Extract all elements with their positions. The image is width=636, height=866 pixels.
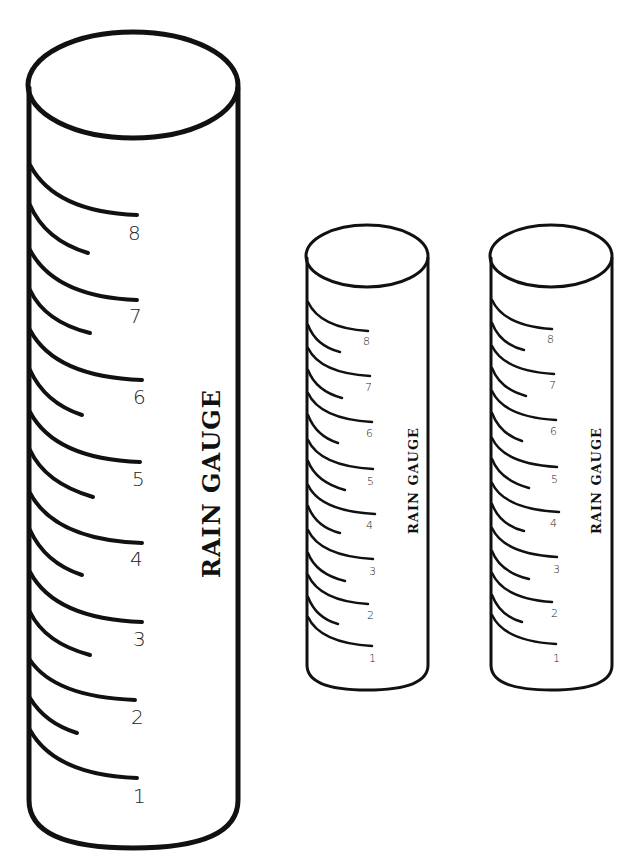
mark-5: 5 — [132, 467, 145, 491]
mark-6: 6 — [366, 427, 373, 440]
large-gauge-label: RAIN GAUGE — [197, 389, 226, 578]
small-rain-gauge-1: 1 2 3 4 5 6 7 8 RAIN GAUGE — [306, 225, 428, 690]
rain-gauges-drawing: 1 2 3 4 5 6 7 8 RAIN GAUGE — [0, 0, 636, 866]
small-gauge-1-scale — [308, 302, 375, 646]
mark-1: 1 — [369, 652, 376, 665]
small-gauge-2-numbers: 1 2 3 4 5 6 7 8 — [547, 333, 560, 665]
large-gauge-numbers: 1 2 3 4 5 6 7 8 — [128, 221, 146, 808]
mark-6: 6 — [550, 425, 557, 438]
small-gauge-2-scale — [492, 300, 559, 644]
mark-3: 3 — [133, 627, 146, 651]
mark-2: 2 — [131, 705, 144, 729]
mark-3: 3 — [553, 563, 560, 576]
mark-5: 5 — [551, 473, 558, 486]
small-gauge-1-numbers: 1 2 3 4 5 6 7 8 — [363, 335, 376, 665]
mark-2: 2 — [551, 607, 558, 620]
mark-7: 7 — [129, 304, 142, 328]
mark-8: 8 — [128, 221, 141, 245]
mark-4: 4 — [366, 519, 373, 532]
mark-7: 7 — [549, 379, 556, 392]
small-gauge-1-rim — [306, 225, 428, 287]
large-gauge-scale — [30, 165, 142, 778]
mark-1: 1 — [133, 784, 146, 808]
small-gauge-1-label: RAIN GAUGE — [406, 427, 421, 534]
large-rain-gauge: 1 2 3 4 5 6 7 8 RAIN GAUGE — [28, 32, 238, 848]
mark-5: 5 — [367, 475, 374, 488]
mark-1: 1 — [553, 652, 560, 665]
small-gauge-2-rim — [490, 225, 612, 287]
mark-3: 3 — [369, 565, 376, 578]
mark-7: 7 — [365, 381, 372, 394]
mark-6: 6 — [133, 385, 146, 409]
large-gauge-rim — [28, 32, 238, 138]
mark-8: 8 — [547, 333, 554, 346]
small-gauge-2-label: RAIN GAUGE — [589, 427, 604, 534]
mark-8: 8 — [363, 335, 370, 348]
mark-2: 2 — [367, 609, 374, 622]
mark-4: 4 — [550, 517, 557, 530]
small-rain-gauge-2: 1 2 3 4 5 6 7 8 RAIN GAUGE — [490, 225, 612, 690]
mark-4: 4 — [130, 547, 143, 571]
